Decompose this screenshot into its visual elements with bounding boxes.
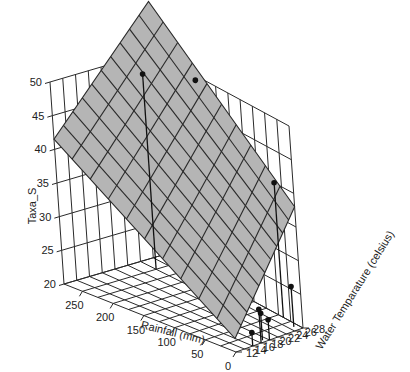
data-point	[258, 311, 264, 317]
z-tick-label: 40	[34, 143, 46, 155]
3d-scatter-chart: 20253035404550 250200150100500 121416182…	[0, 0, 410, 372]
data-point	[193, 77, 199, 83]
z-tick-label: 50	[30, 76, 42, 88]
data-point	[249, 330, 255, 336]
y-axis-label: Water Temparature (celsius)	[313, 228, 396, 351]
x-tick-label: 50	[191, 348, 203, 360]
z-tick-label: 20	[44, 278, 56, 290]
z-tick-label: 45	[32, 110, 44, 122]
y-ticks: 121416182022242628	[236, 323, 325, 359]
data-point	[140, 71, 146, 77]
data-point	[288, 284, 294, 290]
z-tick-label: 25	[41, 244, 53, 256]
x-tick-label: 200	[96, 311, 114, 323]
x-tick-label: 250	[65, 299, 83, 311]
x-tick-label: 0	[225, 360, 231, 372]
z-axis-label: Taxa_S	[26, 188, 38, 225]
data-point	[265, 317, 271, 323]
z-ticks: 20253035404550	[30, 76, 64, 290]
z-tick-label: 35	[37, 177, 49, 189]
data-point	[271, 180, 277, 186]
z-tick-label: 30	[39, 211, 51, 223]
